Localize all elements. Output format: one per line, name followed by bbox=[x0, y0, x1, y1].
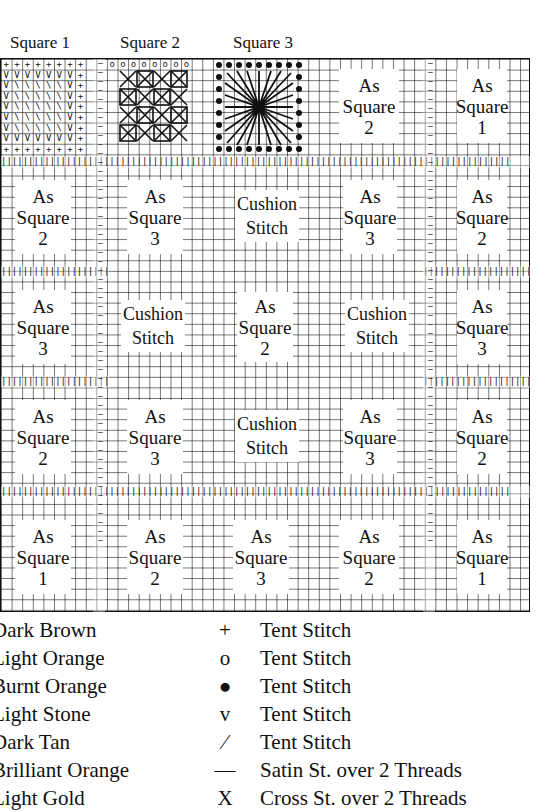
label-line: Square bbox=[456, 427, 509, 448]
label-line: As bbox=[32, 526, 53, 547]
label-line: Stitch bbox=[132, 326, 174, 350]
label-line: Square bbox=[456, 547, 509, 568]
block-r3c2: Cushion Stitch bbox=[199, 388, 331, 486]
label-line: 2 bbox=[38, 228, 48, 249]
label-line: 1 bbox=[38, 568, 48, 589]
as-square-label: As Square 2 bbox=[339, 520, 399, 594]
label-line: Square bbox=[239, 317, 292, 338]
as-square-label: As Square 2 bbox=[339, 69, 399, 143]
label-line: As bbox=[144, 186, 165, 207]
label-line: Square bbox=[17, 317, 70, 338]
label-line: 2 bbox=[477, 228, 487, 249]
legend-color-name: Light Stone bbox=[0, 700, 91, 728]
block-r1c2: Cushion Stitch bbox=[199, 168, 331, 266]
label-line: As bbox=[359, 186, 380, 207]
block-r4c4: As Square 1 bbox=[435, 498, 531, 613]
label-line: As bbox=[471, 296, 492, 317]
label-line: As bbox=[471, 526, 492, 547]
legend-color-name: Dark Brown bbox=[0, 616, 96, 644]
dash-symbol-icon: — bbox=[210, 756, 240, 784]
block-r0c3: As Square 2 bbox=[319, 59, 423, 156]
block-r2c2: As Square 2 bbox=[207, 278, 325, 376]
as-square-label: As Square 2 bbox=[15, 400, 71, 474]
label-line: As bbox=[32, 296, 53, 317]
satin-band-col-1: ————————————————————————————————————————… bbox=[93, 59, 105, 613]
label-line: Square bbox=[343, 547, 396, 568]
as-square-label: As Square 2 bbox=[15, 180, 71, 254]
block-r4c1: As Square 2 bbox=[107, 498, 199, 613]
block-r3c1: As Square 3 bbox=[107, 388, 199, 486]
legend-row: Burnt Orange ● Tent Stitch bbox=[0, 672, 553, 700]
label-line: As bbox=[144, 406, 165, 427]
as-square-label: As Square 2 bbox=[127, 520, 183, 594]
label-line: 2 bbox=[260, 338, 270, 359]
legend-row: Light Stone v Tent Stitch bbox=[0, 700, 553, 728]
label-line: 3 bbox=[38, 338, 48, 359]
block-r4c2: As Square 3 bbox=[213, 498, 309, 613]
legend-color-name: Burnt Orange bbox=[0, 672, 107, 700]
label-line: As bbox=[359, 406, 380, 427]
label-line: Cushion bbox=[347, 302, 407, 326]
label-line: As bbox=[254, 296, 275, 317]
label-line: 3 bbox=[256, 568, 266, 589]
column-heading-square-3: Square 3 bbox=[233, 33, 293, 53]
legend-row: Dark Brown + Tent Stitch bbox=[0, 616, 553, 644]
block-r3c0: As Square 2 bbox=[1, 388, 93, 486]
label-line: Square bbox=[17, 207, 70, 228]
legend-row: Dark Tan ⁄ Tent Stitch bbox=[0, 728, 553, 756]
satin-band-row-2-right: |||||||||||||||||||| bbox=[423, 266, 531, 278]
label-line: Stitch bbox=[246, 216, 288, 240]
block-square-2: oooooooo bbox=[107, 59, 199, 156]
label-line: 2 bbox=[38, 448, 48, 469]
satin-band-row-1: ||||||||||||||||||||||||||||||||||||||||… bbox=[1, 156, 531, 168]
label-line: Square bbox=[456, 207, 509, 228]
block-r1c1: As Square 3 bbox=[107, 168, 199, 266]
label-line: 3 bbox=[150, 228, 160, 249]
as-square-label: As Square 1 bbox=[15, 520, 71, 594]
label-line: Stitch bbox=[356, 326, 398, 350]
legend-stitch-type: Satin St. over 2 Threads bbox=[260, 756, 462, 784]
block-r2c0: As Square 3 bbox=[1, 278, 93, 376]
label-line: 2 bbox=[150, 568, 160, 589]
label-line: Square bbox=[17, 547, 70, 568]
label-line: 2 bbox=[364, 117, 374, 138]
label-line: 3 bbox=[477, 338, 487, 359]
label-line: 1 bbox=[477, 117, 487, 138]
legend-stitch-type: Tent Stitch bbox=[260, 644, 351, 672]
as-square-label: As Square 3 bbox=[15, 290, 71, 364]
block-r2c1: Cushion Stitch bbox=[107, 278, 207, 376]
as-square-label: As Square 3 bbox=[343, 180, 397, 254]
label-line: As bbox=[358, 75, 379, 96]
label-line: As bbox=[250, 526, 271, 547]
cushion-stitch-label: Cushion Stitch bbox=[235, 410, 299, 462]
label-line: 2 bbox=[477, 448, 487, 469]
block-r3c4: As Square 2 bbox=[435, 388, 531, 486]
legend-stitch-type: Cross St. over 2 Threads bbox=[260, 784, 467, 812]
as-square-label: As Square 2 bbox=[237, 292, 293, 362]
label-line: 3 bbox=[365, 448, 375, 469]
circle-outline-symbol-icon: o bbox=[210, 644, 240, 672]
stitch-chart-grid: ||||||||||||||||||||||||||||||||||||||||… bbox=[0, 58, 530, 612]
block-square-1: ++++++++ VVVVVVV+ V\\\\\V+ V\\\\\V+ V\\\… bbox=[1, 59, 93, 156]
legend-stitch-type: Tent Stitch bbox=[260, 616, 351, 644]
v-symbol-icon: v bbox=[210, 700, 240, 728]
legend-row: Brilliant Orange — Satin St. over 2 Thre… bbox=[0, 756, 553, 784]
label-line: Square bbox=[129, 427, 182, 448]
legend-color-name: Dark Tan bbox=[0, 728, 70, 756]
label-line: 1 bbox=[477, 568, 487, 589]
legend-color-name: Brilliant Orange bbox=[0, 756, 129, 784]
cushion-stitch-label: Cushion Stitch bbox=[345, 300, 409, 352]
legend-row: Light Orange o Tent Stitch bbox=[0, 644, 553, 672]
label-line: As bbox=[358, 526, 379, 547]
legend-stitch-type: Tent Stitch bbox=[260, 728, 351, 756]
label-line: Square bbox=[17, 427, 70, 448]
label-line: Square bbox=[129, 547, 182, 568]
legend-stitch-type: Tent Stitch bbox=[260, 672, 351, 700]
label-line: 3 bbox=[150, 448, 160, 469]
block-r0c4: As Square 1 bbox=[435, 59, 531, 156]
block-r4c3: As Square 2 bbox=[319, 498, 423, 613]
block-r4c0: As Square 1 bbox=[1, 498, 93, 613]
label-line: Square bbox=[343, 96, 396, 117]
legend-color-name: Light Orange bbox=[0, 644, 105, 672]
cushion-stitch-label: Cushion Stitch bbox=[235, 190, 299, 242]
